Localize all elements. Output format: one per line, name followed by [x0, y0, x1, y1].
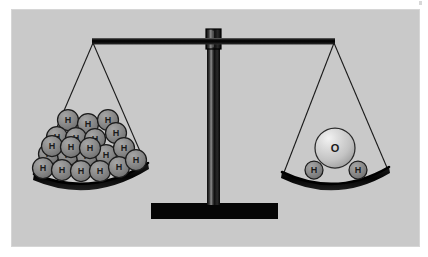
- balance-stand: [151, 29, 278, 219]
- hydrogen-atom[interactable]: H: [349, 161, 367, 179]
- atom-label: H: [78, 166, 85, 176]
- right-pan-atom-group: HHO: [305, 128, 367, 179]
- hydrogen-atom[interactable]: H: [90, 161, 111, 182]
- figure-scene: HHHHHHHHHHHHHHHHHHHHH HHO: [0, 0, 428, 257]
- atom-label: H: [355, 165, 362, 175]
- balance-beam: [92, 38, 335, 45]
- atom-label: H: [49, 141, 56, 151]
- atom-label: H: [85, 119, 92, 129]
- atom-label: H: [97, 166, 104, 176]
- atom-label: H: [116, 162, 123, 172]
- atom-label: H: [68, 142, 75, 152]
- hydrogen-atom[interactable]: H: [33, 158, 54, 179]
- atom-label: H: [87, 143, 94, 153]
- hydrogen-atom[interactable]: H: [71, 161, 92, 182]
- atom-label: H: [121, 143, 128, 153]
- balance-pillar: [207, 42, 220, 205]
- oxygen-atom[interactable]: O: [315, 128, 355, 168]
- atom-label: H: [59, 165, 66, 175]
- hydrogen-atom[interactable]: H: [126, 150, 147, 171]
- atom-label: H: [103, 150, 110, 160]
- atom-label: H: [40, 163, 47, 173]
- atom-label: H: [65, 115, 72, 125]
- hydrogen-atom[interactable]: H: [42, 136, 63, 157]
- atom-label: H: [311, 165, 318, 175]
- balance-base: [151, 203, 278, 219]
- atom-label: H: [133, 155, 140, 165]
- atom-label: H: [113, 128, 120, 138]
- hydrogen-atom[interactable]: H: [61, 137, 82, 158]
- atom-label: O: [331, 142, 340, 154]
- hydrogen-atom[interactable]: H: [305, 161, 323, 179]
- right-pan[interactable]: [281, 167, 390, 190]
- hydrogen-atom[interactable]: H: [52, 160, 73, 181]
- hydrogen-atom[interactable]: H: [80, 138, 101, 159]
- left-pan-atom-cluster: HHHHHHHHHHHHHHHHHHHHH: [33, 110, 147, 182]
- balance-scale-illustration: HHHHHHHHHHHHHHHHHHHHH HHO: [0, 0, 428, 257]
